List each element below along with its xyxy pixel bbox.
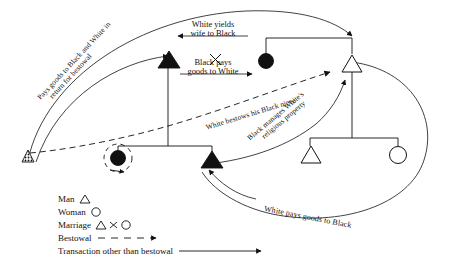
black-man-upper [158,51,180,68]
label-white-yields-wife: White yields wife to Black [181,20,245,39]
white-woman-daughter [390,147,407,164]
triangle-x-circle-icon [95,220,133,230]
legend-item-marriage: Marriage [58,218,267,231]
legend: Man Woman Marriage Bestowal [58,192,267,257]
legend-label-woman: Woman [58,207,86,217]
solid-arrow-icon [177,246,267,256]
label-black-pays-goods: Black pays goods to White [181,58,245,77]
upper-right-marriage-bar [266,38,352,54]
dashed-arrow-icon [96,233,162,243]
circle-open-icon [90,207,102,217]
black-woman-niece [111,151,126,166]
legend-item-transaction: Transaction other than bestowal [58,244,267,257]
legend-label-bestowal: Bestowal [58,233,92,243]
legend-item-bestowal: Bestowal [58,231,267,244]
triangle-open-icon [79,194,91,204]
legend-label-man: Man [58,194,75,204]
white-man-son [301,146,321,163]
legend-item-man: Man [58,192,267,205]
black-man-lower [201,151,223,168]
legend-label-transaction: Transaction other than bestowal [58,246,173,256]
legend-label-marriage: Marriage [58,220,91,230]
diagram-canvas: Pays goods to Black and White in return … [0,0,453,268]
hatched-man-left [22,150,34,162]
lower-left-sibling-bar [118,146,212,152]
legend-item-woman: Woman [58,205,267,218]
black-woman-wife [259,54,274,69]
white-descent-line [310,72,398,146]
